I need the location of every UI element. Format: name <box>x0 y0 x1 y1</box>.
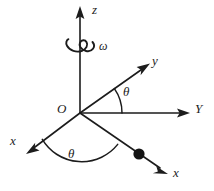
y-axis-arrowhead <box>137 64 150 76</box>
y-axis-label: y <box>152 54 158 67</box>
theta-arc-upper <box>114 89 122 113</box>
Y-axis-label: Y <box>195 102 202 115</box>
Y-axis-fixed <box>80 109 190 118</box>
point-mass-dot <box>133 148 144 159</box>
omega-label: ω <box>99 40 107 52</box>
theta-arc-lower <box>42 139 117 161</box>
x-axis-left-label: x <box>10 134 16 147</box>
z-axis <box>76 6 85 113</box>
x-axis-right <box>80 113 168 174</box>
x-axis-right-label: x <box>173 166 179 179</box>
figure-canvas <box>0 0 214 191</box>
coordinate-frame-figure: z ω y Y O θ θ x x <box>0 0 214 191</box>
theta-lower-label: θ <box>68 147 74 160</box>
origin-label: O <box>57 102 66 115</box>
z-axis-label: z <box>92 3 97 16</box>
theta-upper-label: θ <box>123 85 129 98</box>
